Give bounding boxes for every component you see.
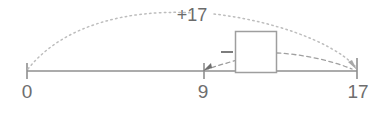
total-jump-arc [28, 12, 192, 69]
total-jump-arrowhead-icon [348, 60, 357, 70]
back-jump-arc [208, 60, 237, 69]
tick-label-0: 0 [22, 81, 33, 102]
diagram-canvas: +17 0 9 17 [0, 0, 382, 116]
missing-value-box[interactable] [236, 32, 277, 73]
tick-label-17: 17 [347, 81, 368, 102]
total-jump-label: +17 [177, 5, 208, 25]
number-line-diagram: +17 0 9 17 [0, 0, 382, 116]
box-to-end-arc [277, 53, 352, 69]
tick-label-9: 9 [198, 81, 209, 102]
